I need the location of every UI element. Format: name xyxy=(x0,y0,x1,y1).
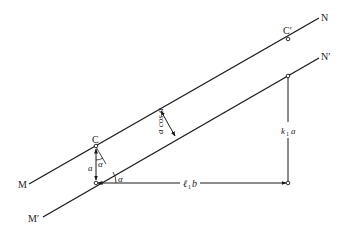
svg-text:1: 1 xyxy=(188,184,191,190)
label-m: M xyxy=(18,179,27,190)
label-n-prime: N′ xyxy=(321,51,330,62)
label-vertical-a: a xyxy=(88,163,93,173)
line-mn xyxy=(29,18,319,184)
svg-text:a: a xyxy=(291,126,296,136)
label-angle-at-base: α xyxy=(118,174,123,184)
label-n: N xyxy=(321,12,328,23)
svg-text:ℓ: ℓ xyxy=(183,178,187,189)
label-c: C xyxy=(92,134,99,145)
svg-text:b: b xyxy=(192,178,197,189)
point-base xyxy=(94,181,98,185)
label-angle-at-c: α xyxy=(98,159,103,169)
label-vertical-distance: k 1 a xyxy=(281,126,296,137)
point-lower-right xyxy=(286,181,290,185)
angle-arc-base xyxy=(113,172,116,183)
label-c-prime: C′ xyxy=(283,25,292,36)
svg-text:1: 1 xyxy=(286,131,289,137)
point-upper-right xyxy=(286,74,290,78)
label-perpendicular-distance: a cos α xyxy=(155,108,165,134)
parallel-lines-diagram: M N M′ N′ C C′ a α α a cos α ℓ 1 b k 1 a xyxy=(0,0,344,233)
label-horizontal-distance: ℓ 1 b xyxy=(183,178,197,190)
line-m-prime-n-prime xyxy=(43,58,319,217)
point-c-prime xyxy=(286,37,290,41)
label-m-prime: M′ xyxy=(28,213,39,224)
